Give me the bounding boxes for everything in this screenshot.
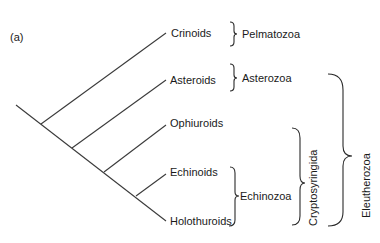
branch-ophiuroids [104, 125, 166, 172]
branch-echinoids [136, 174, 166, 196]
group-echinozoa: Echinozoa [240, 190, 292, 202]
brace-cryptosyringida [292, 128, 305, 225]
group-cryptosyringida: Cryptosyringida [307, 149, 319, 226]
taxon-ophiuroids: Ophiuroids [170, 117, 224, 129]
tree-stem [16, 105, 166, 221]
branch-asteroids [72, 80, 166, 148]
brace-pelmatozoa [230, 22, 237, 46]
taxon-asteroids: Asteroids [170, 74, 216, 86]
taxon-crinoids: Crinoids [171, 27, 212, 39]
taxon-echinoids: Echinoids [170, 166, 218, 178]
brace-eleutherozoa [328, 74, 352, 226]
cladogram: (a) Crinoids Asteroids Ophiuroids Echino… [0, 0, 380, 243]
brace-asterozoa [230, 64, 237, 91]
group-asterozoa: Asterozoa [242, 72, 292, 84]
branch-crinoids [41, 33, 166, 124]
group-eleutherozoa: Eleutherozoa [360, 152, 372, 218]
group-pelmatozoa: Pelmatozoa [242, 28, 301, 40]
panel-label: (a) [10, 31, 23, 43]
taxon-holothuroids: Holothuroids [170, 215, 232, 227]
